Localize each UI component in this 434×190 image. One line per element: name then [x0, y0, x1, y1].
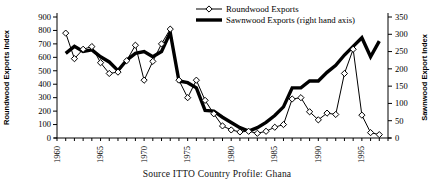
right-axis-tick-label: 150: [395, 81, 408, 91]
roundwood-data-point: [289, 96, 295, 102]
line-chart: 0100200300400500600700800900050100150200…: [0, 0, 434, 168]
legend-roundwood-label: Roundwood Exports: [226, 4, 299, 14]
roundwood-data-point: [63, 30, 69, 36]
left-axis-tick-label: 0: [47, 133, 51, 143]
x-axis-tick-label: 1985: [269, 146, 279, 163]
roundwood-data-point: [341, 70, 347, 76]
x-axis-tick-label: 1970: [139, 146, 149, 163]
left-axis-tick-label: 900: [38, 12, 51, 22]
roundwood-data-point: [376, 132, 382, 138]
left-axis-tick-label: 500: [38, 66, 51, 76]
x-axis-tick-label: 1980: [226, 146, 236, 163]
roundwood-data-point: [263, 128, 269, 134]
x-axis-tick-label: 1995: [356, 146, 366, 163]
roundwood-data-point: [228, 127, 234, 133]
roundwood-data-point: [167, 26, 173, 32]
chart-figure: 0100200300400500600700800900050100150200…: [0, 0, 434, 190]
roundwood-data-point: [272, 124, 278, 130]
roundwood-data-point: [141, 77, 147, 83]
roundwood-data-point: [359, 112, 365, 118]
right-axis-tick-label: 100: [395, 98, 408, 108]
left-axis-tick-label: 200: [38, 106, 51, 116]
left-axis-tick-label: 600: [38, 52, 51, 62]
roundwood-data-point: [254, 130, 260, 136]
legend-sawnwood-label: Sawnwood Exports (right hand axis): [226, 15, 355, 25]
x-axis-tick-label: 1960: [52, 146, 62, 163]
legend-roundwood-marker-icon: [206, 6, 212, 12]
left-axis-tick-label: 100: [38, 119, 51, 129]
roundwood-data-point: [280, 121, 286, 127]
left-axis-tick-label: 700: [38, 39, 51, 49]
right-axis-tick-label: 300: [395, 29, 408, 39]
x-axis-tick-label: 1975: [182, 146, 192, 163]
roundwood-data-point: [132, 42, 138, 48]
x-axis-tick-label: 1965: [95, 146, 105, 163]
right-axis-tick-label: 50: [395, 116, 404, 126]
right-axis-tick-label: 350: [395, 12, 408, 22]
sawnwood-series-line: [66, 33, 380, 132]
roundwood-data-point: [367, 130, 373, 136]
left-axis-tick-label: 300: [38, 92, 51, 102]
left-axis-title: Roundwood Exports Index: [2, 29, 11, 125]
right-axis-tick-label: 250: [395, 46, 408, 56]
roundwood-data-point: [185, 95, 191, 101]
roundwood-data-point: [193, 77, 199, 83]
roundwood-data-point: [298, 95, 304, 101]
right-axis-tick-label: 0: [395, 133, 399, 143]
roundwood-data-point: [150, 58, 156, 64]
left-axis-tick-label: 400: [38, 79, 51, 89]
roundwood-data-point: [333, 111, 339, 117]
left-axis-tick-label: 800: [38, 25, 51, 35]
right-axis-tick-label: 200: [395, 64, 408, 74]
right-axis-title: Sawnwood Export Index: [420, 33, 429, 121]
source-caption: Source ITTO Country Profile: Ghana: [0, 169, 434, 179]
x-axis-tick-label: 1990: [313, 146, 323, 163]
